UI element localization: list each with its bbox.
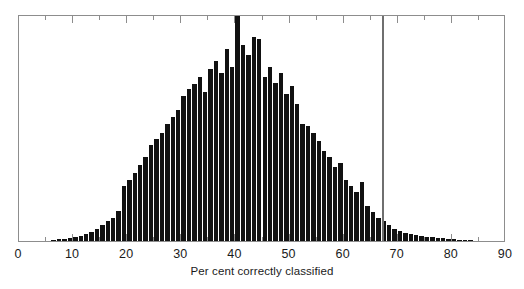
x-axis-tick-minor [99,237,100,241]
histogram-bar [333,167,337,241]
x-axis-tick-major [397,234,398,241]
histogram-bar [84,234,88,241]
x-axis-tick-major [397,16,398,23]
histogram-bar [171,117,175,241]
x-axis-tick-minor [316,16,317,20]
histogram-bar [338,163,342,241]
histogram-bar [387,225,391,241]
histogram-bar [295,104,299,241]
histogram-bar [143,157,147,241]
x-axis-tick-minor [153,16,154,20]
x-axis-tick-label: 30 [173,247,187,261]
histogram-bar [252,37,256,241]
histogram-bar [317,141,321,241]
x-axis-tick-major [451,234,452,241]
x-axis-tick-label: 70 [390,247,404,261]
x-axis-tick-minor [45,237,46,241]
x-axis-tick-minor [370,16,371,20]
histogram-bar [198,77,202,241]
x-axis-tick-label: 40 [227,247,241,261]
x-axis-tick-minor [207,237,208,241]
x-axis-tick-major [289,234,290,241]
histogram-bar [100,225,104,241]
histogram-figure: 0102030405060708090 Per cent correctly c… [0,0,524,289]
histogram-bar [62,239,66,241]
x-axis-tick-major [72,234,73,241]
histogram-bar [149,145,153,241]
x-axis-tick-major [234,234,235,241]
histogram-bar [365,206,369,241]
x-axis-tick-major [180,16,181,23]
histogram-bar [300,124,304,241]
histogram-bar [409,234,413,241]
x-axis-tick-minor [45,16,46,20]
histogram-bar [463,240,467,241]
histogram-bar [371,212,375,241]
histogram-bar [263,77,267,241]
x-axis-tick-minor [424,16,425,20]
x-axis-tick-major [126,234,127,241]
x-axis-tick-minor [478,237,479,241]
histogram-bar [225,49,229,241]
histogram-bar [344,180,348,241]
histogram-bar [284,94,288,241]
histogram-bar [441,238,445,241]
histogram-bar [203,92,207,241]
histogram-bar [257,39,261,241]
histogram-bar [354,192,358,241]
histogram-bar [51,240,55,241]
histogram-bar [403,233,407,241]
x-axis-tick-label: 80 [444,247,458,261]
histogram-bar [306,126,310,241]
x-axis-tick-label: 60 [336,247,350,261]
histogram-bar [79,236,83,241]
histogram-bar [235,15,239,241]
histogram-bar [349,186,353,241]
histogram-bar [133,173,137,241]
histogram-bar [436,238,440,241]
x-axis-tick-major [126,16,127,23]
histogram-bar [165,124,169,241]
histogram-bar [468,240,472,241]
histogram-bar [57,239,61,241]
histogram-bar [452,239,456,241]
histogram-bar [430,237,434,241]
histogram-bar [290,86,294,241]
x-axis-tick-major [180,234,181,241]
x-axis-tick-major [451,16,452,23]
histogram-bar [181,96,185,241]
histogram-bar [208,69,212,241]
x-axis-tick-label: 50 [281,247,295,261]
x-axis-tick-major [234,16,235,23]
histogram-bar [187,89,191,241]
histogram-bar [414,235,418,241]
histogram-bar [73,237,77,241]
histogram-bar [376,218,380,241]
histogram-bar [425,237,429,241]
histogram-bar [360,182,364,241]
x-axis-tick-minor [207,16,208,20]
observed-value-line [382,16,384,241]
x-axis-tick-major [289,16,290,23]
x-axis-tick-major [72,16,73,23]
histogram-bar [89,232,93,241]
x-axis-tick-label: 20 [119,247,133,261]
histogram-bar [241,45,245,241]
histogram-bar [246,55,250,241]
x-axis-tick-minor [316,237,317,241]
histogram-bar [192,84,196,241]
x-axis-tick-minor [424,237,425,241]
x-axis-title: Per cent correctly classified [0,265,524,277]
x-axis-tick-minor [262,16,263,20]
histogram-bars [19,16,504,241]
x-axis-tick-minor [153,237,154,241]
histogram-bar [279,73,283,241]
histogram-bar [268,67,272,241]
x-axis-tick-minor [262,237,263,241]
histogram-bar [138,165,142,241]
x-axis-tick-minor [478,16,479,20]
histogram-bar [160,133,164,241]
histogram-bar [327,157,331,241]
histogram-bar [214,61,218,241]
histogram-bar [122,186,126,241]
